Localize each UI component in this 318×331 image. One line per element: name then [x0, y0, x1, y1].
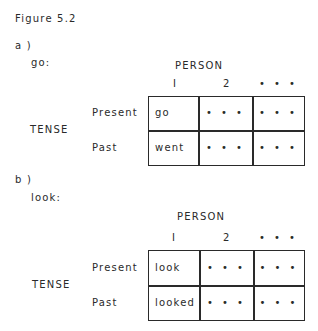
panel-b-col-2: 2 — [223, 232, 231, 244]
table-cell: went — [155, 142, 184, 154]
table-cell: • • • — [200, 297, 253, 309]
panel-b-col-1: I — [172, 232, 176, 244]
panel-a-col-2: 2 — [223, 78, 231, 90]
panel-a-table: go • • • • • • went • • • • • • — [148, 96, 305, 166]
table-cell: • • • — [200, 262, 253, 274]
table-cell: • • • — [253, 107, 304, 119]
table-cell: • • • — [254, 297, 304, 309]
table-cell: • • • — [253, 142, 304, 154]
panel-a-row-present: Present — [92, 107, 138, 119]
figure-title: Figure 5.2 — [15, 13, 77, 25]
panel-a-person-header: PERSON — [175, 60, 223, 72]
panel-b-table: look • • • • • • looked • • • • • • — [148, 250, 305, 321]
panel-b-person-header: PERSON — [177, 211, 225, 223]
table-cell: looked — [155, 297, 195, 309]
panel-b-verb: look: — [31, 192, 61, 204]
table-cell: go — [155, 107, 170, 119]
panel-b-col-3: • • • — [252, 232, 305, 244]
panel-b-tense-header: TENSE — [32, 279, 71, 291]
table-cell: • • • — [199, 107, 252, 119]
panel-a-tense-header: TENSE — [30, 124, 69, 136]
panel-b-row-present: Present — [92, 262, 138, 274]
panel-a-label: a ) — [15, 40, 32, 52]
table-cell: • • • — [199, 142, 252, 154]
divider — [149, 130, 304, 132]
table-cell: look — [155, 262, 181, 274]
panel-a-verb: go: — [31, 57, 50, 69]
table-cell: • • • — [254, 262, 304, 274]
panel-a-row-past: Past — [92, 142, 118, 154]
panel-b-row-past: Past — [92, 297, 118, 309]
panel-b-label: b ) — [15, 174, 32, 186]
panel-a-col-1: I — [173, 78, 177, 90]
divider — [149, 285, 304, 287]
panel-a-col-3: • • • — [252, 78, 305, 90]
